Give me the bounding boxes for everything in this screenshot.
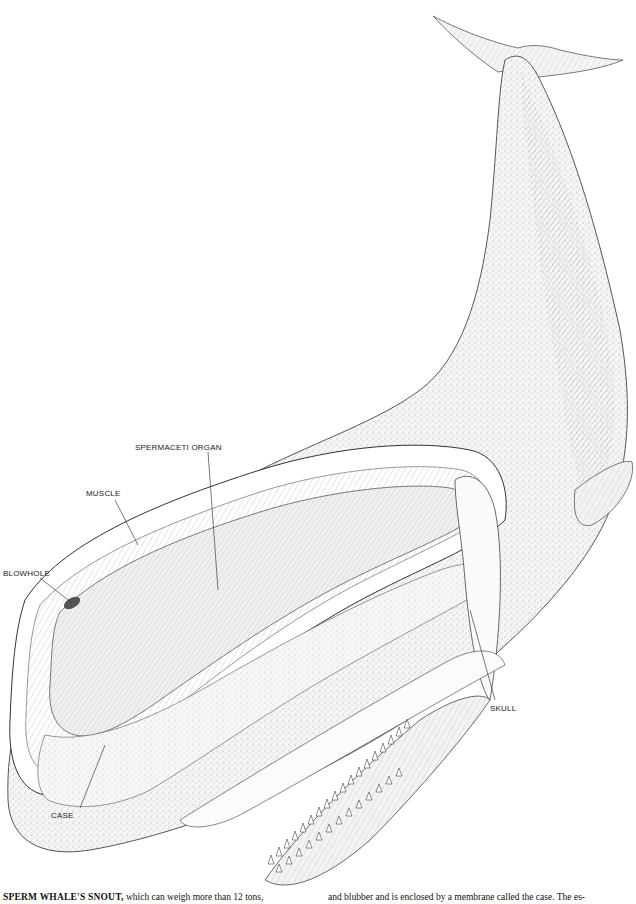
caption-left-text: which can weigh more than 12 tons, bbox=[124, 892, 264, 902]
label-blowhole: BLOWHOLE bbox=[3, 570, 50, 578]
caption-right: and blubber and is enclosed by a membran… bbox=[328, 893, 585, 903]
caption-left: SPERM WHALE'S SNOUT, which can weigh mor… bbox=[3, 893, 263, 903]
label-spermaceti-organ: SPERMACETI ORGAN bbox=[135, 444, 222, 452]
label-muscle: MUSCLE bbox=[86, 490, 121, 498]
label-skull: SKULL bbox=[490, 705, 516, 713]
sperm-whale-illustration bbox=[0, 0, 636, 904]
label-case: CASE bbox=[51, 812, 74, 820]
caption-lead: SPERM WHALE'S SNOUT, bbox=[3, 892, 124, 902]
